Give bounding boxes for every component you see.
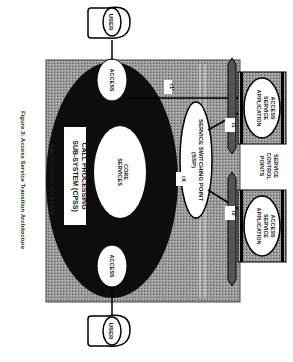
access-label-top: ACCESS [109,69,115,92]
interface-rx: rX [181,176,187,182]
scp-label-line3: POINTS [259,156,265,177]
cpss-label-line1: CALL PROCESSING [81,142,88,210]
scp-app-top-line1: ACCESS [270,97,276,120]
scp-app-bottom-line2: SERVICE [263,214,269,238]
scp-app-top-line2: SERVICE [263,96,269,120]
interface-r1: r1 [231,122,237,127]
scp-app-bottom-line3: APPLICATION [256,208,262,245]
scp-label-line2: CONTROL [266,152,272,180]
interface-r2: r2 [231,210,237,215]
network-rail-bottom [228,172,236,286]
cpss-label-line2: SUB-SYSTEM (CPSS) [71,140,79,212]
network-rail-top [228,58,236,154]
core-services-line2: SERVICES [117,158,123,186]
scp-app-top-line3: APPLICATION [256,90,262,127]
switching-system-label: SWITCHING SYSTEM [49,144,55,216]
diagram-canvas: USER USER ACCESS ACCESS CORE SERVICES CA… [0,0,293,362]
ssp-label-line2: (SSP) [191,152,197,168]
figure-caption: Figure 3: Access Service Transition Arch… [20,111,26,250]
user-label-top: USER [108,14,114,31]
scp-label-line1: SERVICE [273,154,279,178]
user-label-bottom: USER [108,323,114,340]
access-label-bottom: ACCESS [109,255,115,278]
interface-r1prime: r1' [169,84,175,91]
scp-app-bottom-line1: ACCESS [270,215,276,238]
ssp-label-line1: SERVICE SWITCHING POINT [198,119,204,202]
